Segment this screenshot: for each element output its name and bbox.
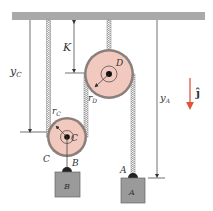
unit-vector-j: ĵ bbox=[190, 78, 200, 106]
block-b: B bbox=[55, 167, 80, 197]
k-label: K bbox=[62, 41, 72, 54]
yc-label: yC bbox=[9, 65, 22, 79]
rc-label: rC bbox=[52, 106, 61, 117]
point-a-label: A bbox=[119, 165, 127, 175]
rope-left-fixed bbox=[47, 20, 51, 137]
pulley-d-label: D bbox=[115, 58, 123, 68]
pulley-c-outer-label: C bbox=[43, 154, 50, 164]
pulley-d: D rD bbox=[84, 49, 134, 104]
block-a-label: A bbox=[128, 188, 135, 197]
rope-d-to-a bbox=[131, 74, 135, 176]
ya-dimension: yA bbox=[148, 20, 171, 178]
j-hat-label: ĵ bbox=[195, 87, 200, 100]
ya-label: yA bbox=[159, 92, 171, 104]
pulley-c-center-label: C bbox=[71, 133, 78, 143]
pulley-diagram: yC K D rD C rC C B B A bbox=[0, 0, 213, 211]
block-b-label: B bbox=[63, 182, 70, 191]
point-b-label: B bbox=[71, 158, 79, 168]
ceiling bbox=[12, 12, 205, 20]
